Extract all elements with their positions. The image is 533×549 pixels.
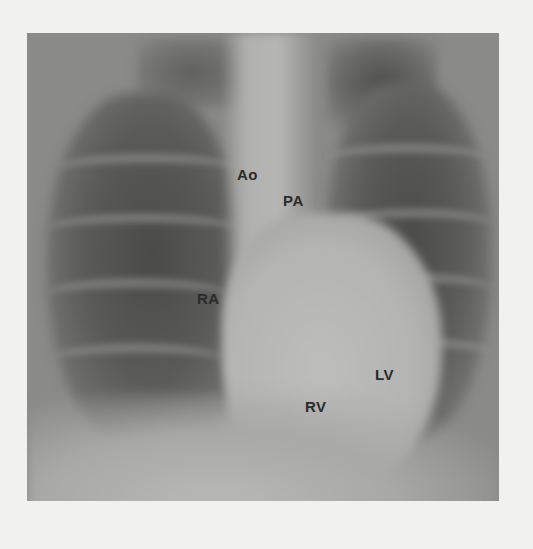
label-right-atrium: RA [197,290,220,307]
rib-shadow [327,143,487,175]
rib-shadow [47,213,237,245]
rib-shadow [57,153,237,185]
label-right-ventricle: RV [305,398,327,415]
rib-shadow [52,343,222,375]
diaphragm [27,393,499,501]
label-pulmonary-artery: PA [283,192,304,209]
label-aorta: Ao [237,166,258,183]
label-left-ventricle: LV [375,366,394,383]
chest-xray-image [27,33,499,501]
